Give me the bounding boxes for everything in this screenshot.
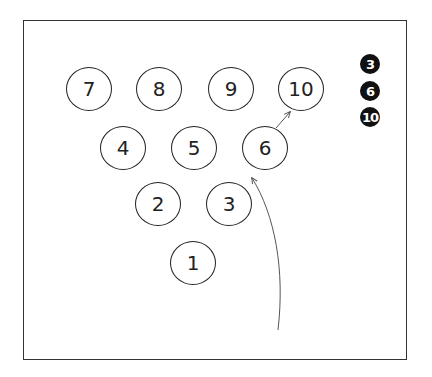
pin-2: 2 (135, 182, 181, 226)
pin-6: 6 (242, 126, 288, 170)
pin-5: 5 (171, 126, 217, 170)
remaining-pin-3: 3 (360, 54, 380, 74)
remaining-pin-6: 6 (360, 81, 380, 101)
ball-path-arrow (252, 178, 280, 330)
pin-deflection-arrow (276, 112, 290, 128)
pin-4: 4 (100, 126, 146, 170)
pin-10: 10 (278, 67, 324, 111)
pin-3: 3 (206, 182, 252, 226)
pin-8: 8 (136, 67, 182, 111)
pin-1: 1 (170, 241, 216, 285)
pin-9: 9 (208, 67, 254, 111)
remaining-pin-10: 10 (360, 107, 380, 127)
pin-7: 7 (66, 67, 112, 111)
